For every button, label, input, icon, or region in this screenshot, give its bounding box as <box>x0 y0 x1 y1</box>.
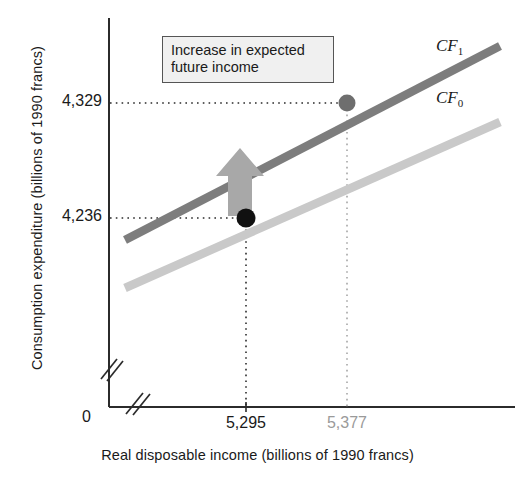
x-tick-label-5295: 5,295 <box>206 414 286 432</box>
data-point-cf1 <box>339 95 356 112</box>
shift-arrow-icon <box>216 148 264 216</box>
cf1-label: CF1 <box>436 36 463 57</box>
cf0-label-sub: 0 <box>458 97 464 109</box>
callout-line-1: Increase in expected <box>171 42 325 59</box>
x-axis-break-icon <box>126 393 150 415</box>
cf1-label-text: CF <box>436 36 458 55</box>
y-tick-label-4236: 4,236 <box>20 207 102 225</box>
y-tick-label-4329: 4,329 <box>20 92 102 110</box>
x-tick-label-5377: 5,377 <box>307 414 387 432</box>
cf0-label-text: CF <box>436 88 458 107</box>
callout-box: Increase in expected future income <box>162 36 334 83</box>
y-axis-break-icon <box>101 359 123 381</box>
origin-label: 0 <box>82 408 91 426</box>
data-point-cf0 <box>237 209 256 228</box>
cf1-label-sub: 1 <box>458 45 464 57</box>
chart-figure: Consumption expenditure (billions of 199… <box>0 0 515 477</box>
cf0-label: CF0 <box>436 88 463 109</box>
x-axis-title: Real disposable income (billions of 1990… <box>0 447 515 463</box>
callout-line-2: future income <box>171 59 325 76</box>
